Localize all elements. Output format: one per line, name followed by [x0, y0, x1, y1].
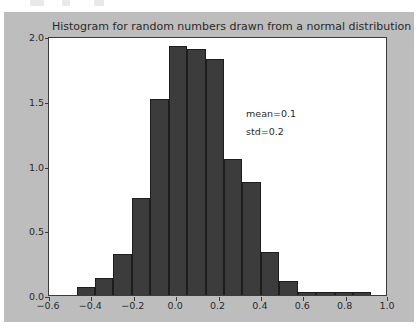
- histogram-bar: [298, 292, 316, 295]
- x-tick-label: 0.0: [168, 300, 183, 311]
- figure-canvas: Histogram for random numbers drawn from …: [4, 12, 414, 322]
- histogram-bar: [187, 49, 205, 295]
- y-tick-label: 1.0: [29, 161, 44, 172]
- y-tick-mark: [45, 38, 49, 39]
- histogram-bar: [279, 281, 297, 295]
- x-axis-tick-labels: −0.6−0.4−0.20.00.20.40.60.81.0: [48, 296, 387, 316]
- histogram-bars-container: [49, 38, 386, 295]
- x-tick-label: −0.2: [121, 300, 144, 311]
- histogram-bar: [95, 278, 113, 295]
- histogram-bar: [206, 59, 224, 295]
- y-tick-mark: [45, 232, 49, 233]
- chart-annotation: std=0.2: [246, 126, 284, 137]
- histogram-bar: [77, 287, 95, 295]
- histogram-bar: [169, 46, 187, 295]
- top-cutoff-strip: [0, 0, 418, 10]
- histogram-bar: [242, 182, 260, 295]
- x-tick-label: 0.2: [210, 300, 225, 311]
- histogram-bar: [113, 254, 131, 295]
- y-tick-label: 0.5: [29, 226, 44, 237]
- x-tick-label: 0.8: [337, 300, 352, 311]
- x-tick-label: 0.6: [295, 300, 310, 311]
- plot-axes-area: mean=0.1std=0.2: [48, 37, 387, 296]
- cutoff-ghost-2: [62, 0, 70, 6]
- cutoff-ghost-1: [30, 0, 44, 6]
- chart-annotation: mean=0.1: [246, 108, 296, 119]
- histogram-bar: [335, 292, 353, 295]
- x-tick-label: 1.0: [379, 300, 394, 311]
- histogram-bar: [261, 252, 279, 295]
- chart-title: Histogram for random numbers drawn from …: [52, 20, 411, 33]
- x-tick-label: −0.6: [36, 300, 59, 311]
- histogram-bar: [353, 292, 371, 295]
- x-tick-label: 0.4: [252, 300, 267, 311]
- y-tick-mark: [45, 168, 49, 169]
- histogram-bar: [224, 159, 242, 295]
- histogram-bar: [132, 198, 150, 295]
- y-tick-mark: [45, 103, 49, 104]
- y-tick-label: 2.0: [29, 32, 44, 43]
- histogram-bar: [150, 99, 168, 295]
- cutoff-ghost-3: [94, 0, 104, 6]
- histogram-bar: [316, 292, 334, 295]
- y-tick-label: 1.5: [29, 96, 44, 107]
- x-tick-label: −0.4: [79, 300, 102, 311]
- y-axis-tick-labels: 0.00.51.01.52.0: [4, 37, 44, 296]
